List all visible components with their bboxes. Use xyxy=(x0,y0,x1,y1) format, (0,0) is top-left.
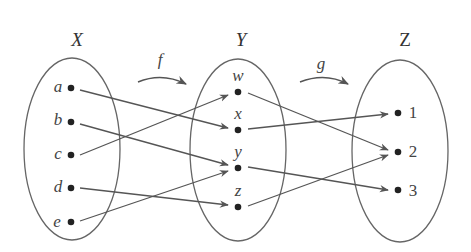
dot-y xyxy=(235,165,242,172)
set-z-title: Z xyxy=(399,29,411,51)
elem-label-2: 2 xyxy=(409,142,418,162)
arrow-b-y xyxy=(80,124,228,165)
dot-3 xyxy=(395,187,402,194)
arrow-e-y xyxy=(80,171,228,221)
arrow-c-w xyxy=(80,95,228,155)
elem-label-d: d xyxy=(54,177,63,197)
arrow-a-x xyxy=(80,90,228,128)
arrow-x-1 xyxy=(248,114,388,129)
set-y-title: Y xyxy=(236,29,247,51)
elem-label-w: w xyxy=(232,66,243,86)
dot-1 xyxy=(395,110,402,117)
arrow-z-2 xyxy=(248,155,388,206)
dot-b xyxy=(68,119,75,126)
dot-z xyxy=(235,204,242,211)
function-f-label: f xyxy=(158,50,163,70)
dot-a xyxy=(68,85,75,92)
elem-label-1: 1 xyxy=(409,103,418,123)
dot-e xyxy=(68,219,75,226)
elem-label-a: a xyxy=(54,77,63,97)
elem-label-b: b xyxy=(54,110,63,130)
dot-x xyxy=(235,127,242,134)
elem-label-z: z xyxy=(235,181,242,201)
g-curve-arrow xyxy=(300,77,348,84)
f-curve-arrow xyxy=(138,77,186,84)
arrow-y-3 xyxy=(248,167,388,190)
function-g-label: g xyxy=(317,54,326,74)
dot-2 xyxy=(395,149,402,156)
elem-label-y: y xyxy=(234,142,242,162)
dot-c xyxy=(68,152,75,159)
elem-label-x: x xyxy=(234,104,242,124)
set-x-title: X xyxy=(71,29,83,51)
dot-w xyxy=(235,89,242,96)
elem-label-c: c xyxy=(54,144,62,164)
dot-d xyxy=(68,185,75,192)
elem-label-e: e xyxy=(53,212,61,232)
elem-label-3: 3 xyxy=(409,181,418,201)
